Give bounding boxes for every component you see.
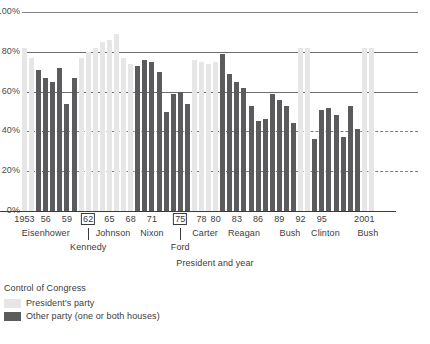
legend-swatch-other-party bbox=[4, 312, 21, 321]
bar-1997 bbox=[334, 115, 339, 211]
bar-2002 bbox=[369, 48, 374, 211]
legend-label-presidents-party: President's party bbox=[26, 298, 94, 308]
bar-2000 bbox=[355, 129, 360, 211]
bar-1971 bbox=[149, 62, 154, 211]
president-label-clinton-8: Clinton bbox=[311, 227, 340, 239]
bar-1977 bbox=[192, 60, 197, 211]
bar-1996 bbox=[326, 108, 331, 211]
bar-1969 bbox=[135, 66, 140, 211]
bar-1965 bbox=[107, 40, 112, 211]
bar-1981 bbox=[220, 54, 225, 211]
y-axis-tick-20: 20% bbox=[2, 166, 20, 175]
bar-1990 bbox=[284, 106, 289, 211]
y-axis-tick-80: 80% bbox=[2, 47, 20, 56]
president-label-johnson-2: Johnson bbox=[96, 227, 131, 239]
x-tick-1968: 68 bbox=[126, 213, 136, 225]
x-axis-line bbox=[0, 211, 396, 212]
x-tick-2001: 2001 bbox=[354, 213, 374, 225]
bar-1958 bbox=[57, 68, 62, 211]
x-tick-1953: 1953 bbox=[14, 213, 34, 225]
y-axis-tick-40: 40% bbox=[2, 126, 20, 135]
bar-1963 bbox=[93, 48, 98, 211]
legend: Control of Congress President's party Ot… bbox=[4, 283, 304, 324]
y-axis-tick-100: 100% bbox=[0, 7, 20, 16]
x-tick-1962: 62 bbox=[81, 213, 95, 225]
x-tick-1975: 75 bbox=[173, 213, 187, 225]
bar-series bbox=[22, 12, 418, 211]
x-tick-1978: 78 bbox=[196, 213, 206, 225]
bar-1979 bbox=[206, 64, 211, 211]
bar-1974 bbox=[171, 94, 176, 211]
x-axis-title: President and year bbox=[0, 258, 430, 268]
x-tick-box-1962: 62 bbox=[81, 213, 95, 225]
president-label-bush-7: Bush bbox=[280, 227, 301, 239]
bar-1982 bbox=[227, 74, 232, 211]
x-tick-1980: 80 bbox=[211, 213, 221, 225]
bar-1993 bbox=[305, 48, 310, 211]
bar-1994 bbox=[312, 139, 317, 211]
bar-1991 bbox=[291, 123, 296, 211]
x-axis-tick-labels: 195356596265687175788083868992952001 bbox=[0, 213, 430, 227]
bar-1967 bbox=[121, 58, 126, 211]
bar-1976 bbox=[185, 104, 190, 211]
president-label-kennedy-1: Kennedy bbox=[70, 241, 106, 253]
x-tick-1959: 59 bbox=[62, 213, 72, 225]
president-label-bush-9: Bush bbox=[357, 227, 378, 239]
y-axis-tick-60: 60% bbox=[2, 87, 20, 96]
president-labels: EisenhowerKennedyJohnsonNixonFordCarterR… bbox=[0, 227, 430, 241]
president-label-reagan-6: Reagan bbox=[228, 227, 260, 239]
bar-1964 bbox=[100, 42, 105, 211]
bar-1992 bbox=[298, 48, 303, 211]
x-tick-1971: 71 bbox=[147, 213, 157, 225]
bar-1960 bbox=[72, 78, 77, 211]
y-axis-labels: 0%20%40%60%80%100% bbox=[0, 0, 22, 225]
bar-1998 bbox=[341, 137, 346, 211]
bar-1985 bbox=[249, 106, 254, 211]
bar-1955 bbox=[36, 70, 41, 211]
bar-1975 bbox=[178, 92, 183, 211]
bar-1970 bbox=[142, 60, 147, 211]
president-label-eisenhower-0: Eisenhower bbox=[22, 227, 70, 239]
bar-1987 bbox=[263, 119, 268, 211]
legend-title: Control of Congress bbox=[4, 283, 304, 293]
bar-1973 bbox=[164, 112, 169, 212]
bar-1983 bbox=[234, 82, 239, 211]
leader-line-ford bbox=[180, 228, 181, 240]
x-tick-1989: 89 bbox=[274, 213, 284, 225]
bar-1957 bbox=[50, 82, 55, 211]
bar-1972 bbox=[157, 72, 162, 211]
president-label-nixon-3: Nixon bbox=[140, 227, 164, 239]
bar-1984 bbox=[241, 88, 246, 211]
x-tick-1992: 92 bbox=[296, 213, 306, 225]
bar-1980 bbox=[213, 62, 218, 211]
legend-label-other-party: Other party (one or both houses) bbox=[26, 311, 160, 321]
bar-1959 bbox=[64, 104, 69, 211]
x-tick-box-1975: 75 bbox=[173, 213, 187, 225]
plot-area bbox=[22, 12, 418, 211]
bar-1953 bbox=[22, 48, 27, 211]
bar-1956 bbox=[43, 78, 48, 211]
leader-line-kennedy bbox=[88, 228, 89, 240]
bar-1954 bbox=[29, 58, 34, 211]
bar-1978 bbox=[199, 62, 204, 211]
x-tick-1995: 95 bbox=[317, 213, 327, 225]
bar-1986 bbox=[256, 121, 261, 211]
bar-1968 bbox=[128, 64, 133, 211]
x-tick-1983: 83 bbox=[232, 213, 242, 225]
president-label-ford-4: Ford bbox=[171, 241, 190, 253]
bar-1988 bbox=[270, 94, 275, 211]
bar-1995 bbox=[319, 110, 324, 211]
x-tick-1965: 65 bbox=[104, 213, 114, 225]
bar-1962 bbox=[86, 52, 91, 211]
x-tick-1986: 86 bbox=[253, 213, 263, 225]
bar-2001 bbox=[362, 48, 367, 211]
legend-item-presidents-party: President's party bbox=[4, 298, 304, 308]
bar-1989 bbox=[277, 100, 282, 211]
bar-1961 bbox=[79, 58, 84, 211]
bar-1999 bbox=[348, 106, 353, 211]
president-label-carter-5: Carter bbox=[192, 227, 218, 239]
chart-container: 0%20%40%60%80%100% 195356596265687175788… bbox=[0, 0, 430, 344]
x-tick-1956: 56 bbox=[41, 213, 51, 225]
bar-1966 bbox=[114, 34, 119, 211]
legend-item-other-party: Other party (one or both houses) bbox=[4, 311, 304, 321]
